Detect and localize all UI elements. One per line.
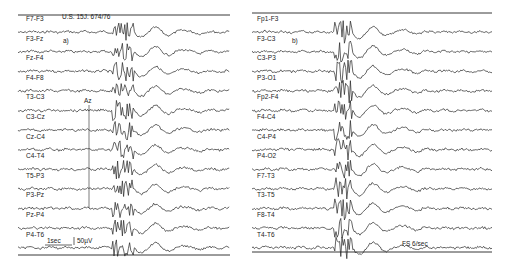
channel-label: F3-Fz xyxy=(26,35,43,42)
channel-label: T4-T6 xyxy=(257,231,275,238)
marker-label: Az xyxy=(84,97,92,104)
channel-label: F8-T4 xyxy=(257,211,275,218)
channel-label: F4-C4 xyxy=(257,113,276,120)
channel-label: C3-Cz xyxy=(26,113,45,120)
amplitude-scale-label: 50µV xyxy=(77,237,92,244)
stimulus-label: FS 6/sec xyxy=(402,240,428,247)
channel-label: P3-O1 xyxy=(257,74,276,81)
channel-label: Fp2-F4 xyxy=(257,93,279,100)
channel-label: T5-P3 xyxy=(26,172,44,179)
panel-letter-b: b) xyxy=(292,37,298,44)
channel-label: P4-T6 xyxy=(26,231,44,238)
eeg-panel-a: U.S. 15J. 674/76 a) Az 1sec 50µV F7-F3F3… xyxy=(0,0,250,264)
channel-label: F7-T3 xyxy=(257,172,275,179)
eeg-traces-b xyxy=(252,0,509,264)
patient-id: U.S. 15J. 674/76 xyxy=(62,13,110,20)
channel-label: C4-P4 xyxy=(257,133,276,140)
channel-label: Cz-C4 xyxy=(26,133,45,140)
channel-label: P3-Pz xyxy=(26,191,44,198)
channel-label: C3-P3 xyxy=(257,54,276,61)
channel-label: C4-T4 xyxy=(26,152,45,159)
time-scale-label: 1sec xyxy=(47,237,61,244)
channel-label: P4-O2 xyxy=(257,152,276,159)
channel-label: T3-C3 xyxy=(26,93,45,100)
channel-label: T3-T5 xyxy=(257,191,275,198)
channel-label: Fp1-F3 xyxy=(257,15,279,22)
channel-label: Fz-F4 xyxy=(26,54,43,61)
channel-label: F3-C3 xyxy=(257,35,276,42)
channel-label: Pz-P4 xyxy=(26,211,44,218)
eeg-panel-b: b) FS 6/sec Fp1-F3F3-C3C3-P3P3-O1Fp2-F4F… xyxy=(252,0,509,264)
channel-label: F4-F8 xyxy=(26,74,44,81)
panel-letter-a: a) xyxy=(63,37,69,44)
channel-label: F7-F3 xyxy=(26,15,44,22)
